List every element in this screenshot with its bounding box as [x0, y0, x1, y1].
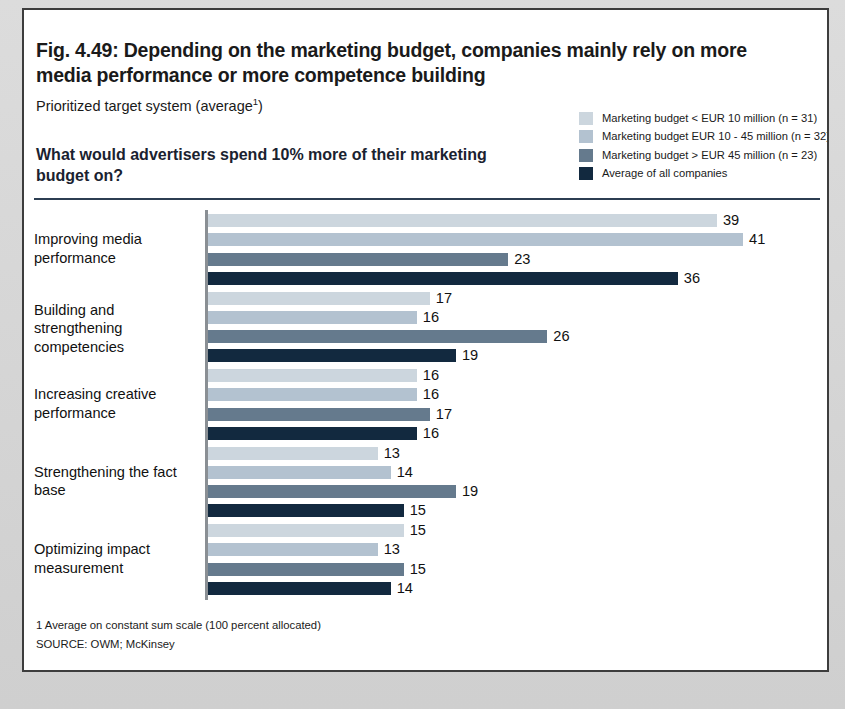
subtitle-tail: )	[258, 98, 263, 114]
legend-item[interactable]: Marketing budget EUR 10 - 45 million (n …	[579, 128, 829, 147]
bar-row: 39	[208, 214, 739, 227]
bar-row: 17	[208, 292, 452, 305]
bar-row: 16	[208, 311, 439, 324]
category-label-list: Improving media performanceBuilding and …	[34, 206, 202, 606]
legend-item-label: Average of all companies	[602, 167, 727, 180]
bar[interactable]	[208, 330, 547, 343]
footnote-list: 1 Average on constant sum scale (100 per…	[36, 616, 321, 654]
bar[interactable]	[208, 349, 456, 362]
legend-swatch-icon	[579, 167, 593, 180]
bar[interactable]	[208, 311, 417, 324]
bar-value-label: 36	[684, 272, 700, 285]
category-label: Increasing creative performance	[34, 385, 202, 422]
bar[interactable]	[208, 292, 430, 305]
bar-row: 41	[208, 233, 765, 246]
bar[interactable]	[208, 214, 717, 227]
bar-value-label: 16	[423, 369, 439, 382]
category-label: Building and strengthening competencies	[34, 301, 202, 357]
bar[interactable]	[208, 233, 743, 246]
bar-row: 16	[208, 369, 439, 382]
page-title: Fig. 4.49: Depending on the marketing bu…	[36, 38, 806, 88]
bar[interactable]	[208, 485, 456, 498]
bar[interactable]	[208, 388, 417, 401]
chart-plot-area: Improving media performanceBuilding and …	[24, 206, 829, 606]
legend-swatch-icon	[579, 149, 593, 162]
bar[interactable]	[208, 504, 404, 517]
bar-value-label: 19	[462, 349, 478, 362]
legend-swatch-icon	[579, 112, 593, 125]
header-divider	[34, 198, 820, 200]
chart-question: What would advertisers spend 10% more of…	[36, 144, 506, 186]
bar[interactable]	[208, 466, 391, 479]
bar-value-label: 13	[384, 543, 400, 556]
bar-value-label: 15	[410, 563, 426, 576]
bar-value-label: 26	[553, 330, 569, 343]
bar[interactable]	[208, 253, 508, 266]
bar-row: 13	[208, 447, 400, 460]
bar-value-label: 17	[436, 408, 452, 421]
bar[interactable]	[208, 582, 391, 595]
bar-row: 13	[208, 543, 400, 556]
subtitle-text: Prioritized target system (average	[36, 98, 253, 114]
bar-value-label: 19	[462, 485, 478, 498]
bar-value-label: 41	[749, 233, 765, 246]
bar-row: 15	[208, 524, 426, 537]
legend-item[interactable]: Average of all companies	[579, 165, 829, 184]
legend-item-label: Marketing budget EUR 10 - 45 million (n …	[602, 130, 829, 143]
bar-row: 36	[208, 272, 700, 285]
bar-value-label: 39	[723, 214, 739, 227]
bar-row: 14	[208, 466, 413, 479]
bar[interactable]	[208, 447, 378, 460]
bar[interactable]	[208, 408, 430, 421]
bar-row: 16	[208, 388, 439, 401]
footnote-average-note: 1 Average on constant sum scale (100 per…	[36, 616, 321, 635]
category-label: Optimizing impact measurement	[34, 540, 202, 577]
bar-value-label: 23	[514, 253, 530, 266]
category-label: Improving media performance	[34, 230, 202, 267]
bar-value-label: 15	[410, 504, 426, 517]
legend-item[interactable]: Marketing budget < EUR 10 million (n = 3…	[579, 109, 829, 128]
bar-value-label: 13	[384, 447, 400, 460]
bar[interactable]	[208, 543, 378, 556]
figure-card: Fig. 4.49: Depending on the marketing bu…	[22, 8, 829, 672]
legend-item-label: Marketing budget < EUR 10 million (n = 3…	[602, 112, 817, 125]
legend-item[interactable]: Marketing budget > EUR 45 million (n = 2…	[579, 146, 829, 165]
category-label: Strengthening the fact base	[34, 463, 202, 500]
bar-value-label: 16	[423, 388, 439, 401]
bar-row: 17	[208, 408, 452, 421]
legend-swatch-icon	[579, 130, 593, 143]
bar[interactable]	[208, 524, 404, 537]
bar-row: 14	[208, 582, 413, 595]
bar-value-label: 17	[436, 292, 452, 305]
bar-value-label: 14	[397, 582, 413, 595]
legend-item-label: Marketing budget > EUR 45 million (n = 2…	[602, 149, 817, 162]
bar-group-list: 3941233617162619161617161314191515131514	[208, 206, 828, 606]
bar[interactable]	[208, 369, 417, 382]
bar-value-label: 16	[423, 311, 439, 324]
bar-row: 15	[208, 563, 426, 576]
chart-legend: Marketing budget < EUR 10 million (n = 3…	[579, 109, 829, 183]
bar-value-label: 14	[397, 466, 413, 479]
bar-row: 19	[208, 349, 478, 362]
footnote-source: SOURCE: OWM; McKinsey	[36, 635, 321, 654]
bar-row: 23	[208, 253, 530, 266]
bar-value-label: 15	[410, 524, 426, 537]
bar[interactable]	[208, 427, 417, 440]
bar-row: 19	[208, 485, 478, 498]
bar[interactable]	[208, 563, 404, 576]
bar-value-label: 16	[423, 427, 439, 440]
bar-row: 15	[208, 504, 426, 517]
bar-row: 16	[208, 427, 439, 440]
bar[interactable]	[208, 272, 678, 285]
chart-subtitle: Prioritized target system (average1)	[36, 97, 263, 115]
bar-row: 26	[208, 330, 570, 343]
